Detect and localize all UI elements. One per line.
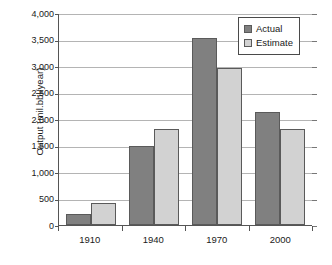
x-tick-mark xyxy=(249,226,250,231)
bar-actual-1940[interactable] xyxy=(129,146,154,226)
chart-legend: ActualEstimate xyxy=(238,17,300,55)
bar-chart: Output (mil.bbl/year) 05001,0001,5002,00… xyxy=(0,0,332,265)
legend-label: Actual xyxy=(256,24,282,34)
bar-actual-1910[interactable] xyxy=(66,214,91,225)
legend-swatch-icon-actual xyxy=(244,25,252,33)
bar-actual-2000[interactable] xyxy=(255,112,280,225)
y-tick-label: 2,000 xyxy=(14,116,54,125)
x-axis-ticks xyxy=(58,226,312,231)
x-tick-mark xyxy=(122,226,123,231)
bar-actual-1970[interactable] xyxy=(192,38,217,225)
x-tick-mark xyxy=(185,226,186,231)
y-tick-label: 1,500 xyxy=(14,142,54,151)
x-tick-label-1910: 1910 xyxy=(58,234,122,248)
bar-estimate-1970[interactable] xyxy=(217,68,242,225)
bar-estimate-2000[interactable] xyxy=(280,129,305,225)
y-axis-tick-labels: 05001,0001,5002,0002,5003,0003,5004,000 xyxy=(14,14,54,226)
legend-item-estimate[interactable]: Estimate xyxy=(244,36,293,50)
x-axis-tick-labels: 1910194019702000 xyxy=(58,234,312,248)
y-tick-label: 3,500 xyxy=(14,36,54,45)
y-tick-mark-right xyxy=(312,120,317,121)
bar-group-1910 xyxy=(59,14,122,225)
y-tick-mark-right xyxy=(312,14,317,15)
x-tick-label-2000: 2000 xyxy=(249,234,313,248)
legend-swatch-icon-estimate xyxy=(244,39,252,47)
bar-estimate-1940[interactable] xyxy=(154,129,179,225)
y-tick-mark-right xyxy=(312,67,317,68)
x-tick-label-1940: 1940 xyxy=(122,234,186,248)
bar-group-1940 xyxy=(122,14,185,225)
x-tick-mark xyxy=(312,226,313,231)
y-tick-mark-right xyxy=(312,147,317,148)
x-tick-mark xyxy=(58,226,59,231)
y-tick-label: 1,000 xyxy=(14,169,54,178)
legend-item-actual[interactable]: Actual xyxy=(244,22,293,36)
y-tick-label: 0 xyxy=(14,222,54,231)
y-tick-mark-right xyxy=(312,41,317,42)
y-tick-mark-right xyxy=(312,200,317,201)
y-tick-label: 500 xyxy=(14,195,54,204)
legend-label: Estimate xyxy=(256,38,293,48)
y-tick-label: 3,000 xyxy=(14,63,54,72)
bar-estimate-1910[interactable] xyxy=(91,203,116,225)
y-tick-label: 4,000 xyxy=(14,10,54,19)
y-tick-mark-right xyxy=(312,173,317,174)
y-tick-mark-right xyxy=(312,94,317,95)
x-tick-label-1970: 1970 xyxy=(185,234,249,248)
y-tick-label: 2,500 xyxy=(14,89,54,98)
